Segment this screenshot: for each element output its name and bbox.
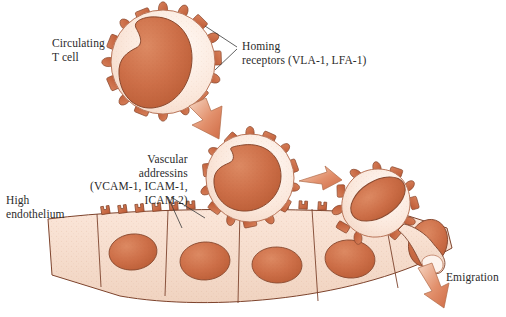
arrow-to-adhering [299,166,342,190]
figure-canvas: Circulating T cell Homing receptors (VLA… [0,0,506,317]
label-emigration: Emigration [446,271,499,285]
label-homing-receptors: Homing receptors (VLA-1, LFA-1) [242,40,367,67]
label-vascular-addressins: Vascular addressins (VCAM-1, ICAM-1, ICA… [90,153,188,207]
arrow-to-rolling [189,98,222,139]
label-circulating-t-cell: Circulating T cell [52,37,105,64]
arrow-emigration [418,263,449,308]
label-high-endothelium: High endothelium [6,194,65,221]
